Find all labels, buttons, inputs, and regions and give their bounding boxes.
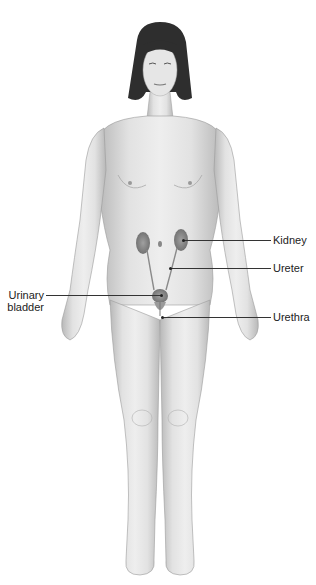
label-urethra: Urethra (273, 311, 310, 323)
kidney-leader-line (183, 240, 271, 241)
label-urinary-bladder-line1: Urinary (6, 289, 44, 301)
urinary-bladder-leader-line (46, 295, 162, 296)
kidney-pointer-dot (182, 239, 185, 242)
kidney-left-organ (136, 232, 150, 254)
label-kidney: Kidney (273, 234, 307, 246)
leg-right (160, 300, 210, 575)
label-urinary-bladder-line2: bladder (6, 301, 44, 313)
urethra-leader-line (162, 317, 271, 318)
leg-left (110, 300, 160, 575)
urethra-pointer-dot (161, 316, 164, 319)
ureter-pointer-dot (169, 267, 172, 270)
label-ureter: Ureter (273, 262, 304, 274)
label-urinary-bladder: Urinary bladder (6, 289, 44, 313)
arm-right (214, 128, 258, 340)
ureter-leader-line (170, 268, 271, 269)
arm-left (62, 128, 106, 340)
anatomical-figure (0, 0, 316, 585)
urinary-bladder-pointer-dot (160, 294, 163, 297)
torso (98, 116, 222, 305)
